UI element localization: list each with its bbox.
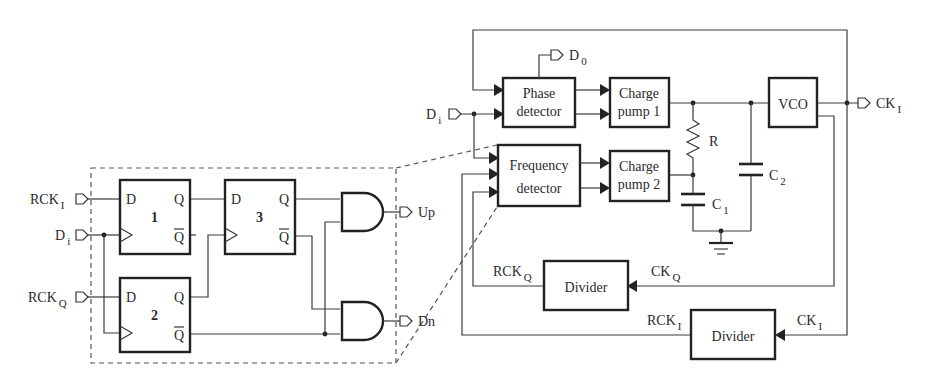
- vco-block: VCO: [769, 78, 817, 127]
- pll-block-diagram: Di Phase detector D0 Charge p: [426, 30, 901, 359]
- flip-flop-2: D 2 Q Q: [120, 278, 190, 352]
- zoom-line-bottom: [396, 207, 497, 363]
- ff1-qbar-label: Q: [174, 230, 184, 245]
- ff1-id-label: 1: [151, 210, 158, 225]
- dn-output-port: Dn: [400, 314, 435, 329]
- charge-pump-2-label-1: Charge: [619, 159, 659, 174]
- ff2-d-label: D: [126, 290, 136, 305]
- ff3-qbar-label: Q: [279, 230, 289, 245]
- and-gate-dn: [342, 302, 383, 340]
- d0-output-label: D0: [569, 48, 587, 67]
- divider-q-block: Divider: [544, 261, 628, 310]
- charge-pump-1-label-2: pump 1: [618, 104, 660, 119]
- c1-label: C1: [712, 197, 729, 216]
- ff3-d-label: D: [231, 192, 241, 207]
- ff2-id-label: 2: [151, 308, 158, 323]
- rcki-signal-label: RCKI: [647, 313, 682, 332]
- phase-detector-label-2: detector: [516, 104, 561, 119]
- charge-pump-2-block: Charge pump 2: [610, 151, 669, 201]
- frequency-detector-detail: RCKI Di RCKQ D: [28, 145, 497, 363]
- dn-output-label: Dn: [418, 314, 435, 329]
- cki-output-label: CKI: [876, 96, 901, 115]
- diagram-canvas: RCKI Di RCKQ D: [0, 0, 933, 384]
- ff2-qbar-label: Q: [174, 328, 184, 343]
- di-input-label: Di: [426, 107, 441, 126]
- up-output-port: Up: [400, 205, 435, 220]
- rckq-input-port: RCKQ: [28, 290, 88, 309]
- rckq-signal-label: RCKQ: [493, 264, 532, 283]
- d0-output-port: D0: [551, 48, 587, 67]
- charge-pump-2-label-2: pump 2: [618, 177, 660, 192]
- resistor-label: R: [709, 134, 719, 149]
- ff3-q-label: Q: [279, 192, 289, 207]
- di-input-port: Di: [426, 107, 461, 126]
- cki-divider-signal-label: CKI: [797, 313, 822, 332]
- ff1-d-label: D: [126, 192, 136, 207]
- divider-q-label: Divider: [565, 280, 608, 295]
- di-detail-input-label: Di: [55, 228, 70, 247]
- ff1-q-label: Q: [174, 192, 184, 207]
- ground-icon: [709, 229, 733, 254]
- vco-label: VCO: [778, 97, 808, 112]
- flip-flop-1: D 1 Q Q: [120, 180, 190, 254]
- rckq-input-label: RCKQ: [28, 290, 67, 309]
- frequency-detector-label-1: Frequency: [509, 158, 568, 173]
- divider-i-block: Divider: [691, 310, 775, 359]
- flip-flop-3: D 3 Q Q: [225, 180, 295, 254]
- and-gate-up: [342, 193, 383, 231]
- zoom-line-top: [396, 145, 497, 168]
- cki-output-port: CKI: [858, 96, 901, 115]
- di-input-port: Di: [55, 228, 88, 247]
- phase-detector-block: Phase detector: [503, 78, 575, 127]
- ff2-q-label: Q: [174, 290, 184, 305]
- pll-diagram: RCKI Di RCKQ D: [0, 0, 933, 384]
- ff3-id-label: 3: [256, 210, 263, 225]
- rcki-input-port: RCKI: [30, 192, 88, 211]
- phase-detector-label-1: Phase: [523, 86, 556, 101]
- frequency-detector-block: Frequency detector: [498, 145, 580, 206]
- divider-i-label: Divider: [712, 329, 755, 344]
- up-output-label: Up: [418, 205, 435, 220]
- rcki-input-label: RCKI: [30, 192, 65, 211]
- ckq-signal-label: CKQ: [651, 264, 680, 283]
- charge-pump-1-block: Charge pump 1: [610, 78, 669, 127]
- frequency-detector-label-2: detector: [516, 181, 561, 196]
- c2-label: C2: [769, 168, 786, 187]
- charge-pump-1-label-1: Charge: [619, 86, 659, 101]
